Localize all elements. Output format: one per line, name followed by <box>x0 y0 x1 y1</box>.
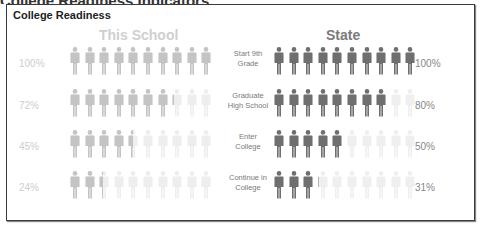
person-icon <box>201 89 211 117</box>
person-icon <box>172 47 182 75</box>
state-percent: 80% <box>415 100 455 111</box>
person-icon <box>99 130 109 158</box>
person-icon <box>362 130 372 158</box>
person-icon <box>128 47 138 75</box>
person-icon <box>85 171 95 199</box>
person-icon <box>362 171 372 199</box>
person-icon <box>405 89 415 117</box>
person-icon <box>114 47 124 75</box>
person-icon <box>347 171 357 199</box>
college-readiness-panel: College Readiness This School State 100%… <box>6 4 475 221</box>
row-continue-in-college: 24% Continue inCollege 31% <box>7 169 474 205</box>
person-icon <box>318 130 328 158</box>
person-icon <box>85 89 95 117</box>
person-icon <box>303 171 313 199</box>
person-icon <box>99 89 109 117</box>
person-icon <box>274 47 284 75</box>
person-icon <box>128 171 138 199</box>
person-icon <box>143 171 153 199</box>
row-enter-college: 45% EnterCollege 50% <box>7 128 474 164</box>
person-icon <box>70 47 80 75</box>
person-icon <box>289 171 299 199</box>
person-icon <box>332 171 342 199</box>
person-icon <box>332 130 342 158</box>
person-icon <box>405 171 415 199</box>
person-icon <box>114 130 124 158</box>
person-icon <box>201 47 211 75</box>
person-icon <box>318 89 328 117</box>
person-icon <box>376 171 386 199</box>
state-header: State <box>326 27 360 43</box>
person-icon <box>99 171 109 199</box>
person-icon <box>303 47 313 75</box>
person-icon <box>391 130 401 158</box>
stage-label: EnterCollege <box>213 132 283 152</box>
person-icon <box>405 130 415 158</box>
person-icon <box>362 89 372 117</box>
person-icon <box>201 130 211 158</box>
row-graduate-high-school: 72% GraduateHigh School 80% <box>7 87 474 123</box>
person-icon <box>347 89 357 117</box>
person-icon <box>376 130 386 158</box>
person-icon <box>274 130 284 158</box>
person-icon <box>332 47 342 75</box>
school-percent: 100% <box>19 58 57 69</box>
person-icon <box>391 171 401 199</box>
person-icon <box>158 171 168 199</box>
this-school-header: This School <box>99 27 178 43</box>
person-icon <box>274 171 284 199</box>
school-percent: 24% <box>19 182 57 193</box>
person-icon <box>318 47 328 75</box>
person-icon <box>289 47 299 75</box>
person-icon <box>303 130 313 158</box>
state-percent: 31% <box>415 182 455 193</box>
person-icon <box>376 47 386 75</box>
person-icon <box>274 89 284 117</box>
person-icon <box>289 130 299 158</box>
person-icon <box>70 89 80 117</box>
person-icon <box>303 89 313 117</box>
person-icon <box>128 130 138 158</box>
person-icon <box>391 47 401 75</box>
person-icon <box>114 89 124 117</box>
stage-label: Start 9thGrade <box>213 49 283 69</box>
person-icon <box>187 47 197 75</box>
person-icon <box>143 130 153 158</box>
person-icon <box>187 130 197 158</box>
person-icon <box>318 171 328 199</box>
stage-label: GraduateHigh School <box>213 91 283 111</box>
person-icon <box>143 89 153 117</box>
stage-label: Continue inCollege <box>213 173 283 193</box>
person-icon <box>391 89 401 117</box>
person-icon <box>158 89 168 117</box>
person-icon <box>158 130 168 158</box>
state-percent: 100% <box>415 58 455 69</box>
person-icon <box>70 171 80 199</box>
person-icon <box>158 47 168 75</box>
person-icon <box>201 171 211 199</box>
person-icon <box>187 171 197 199</box>
person-icon <box>187 89 197 117</box>
panel-title: College Readiness <box>13 9 111 21</box>
person-icon <box>347 130 357 158</box>
person-icon <box>376 89 386 117</box>
person-icon <box>99 47 109 75</box>
person-icon <box>172 89 182 117</box>
person-icon <box>143 47 153 75</box>
person-icon <box>85 130 95 158</box>
person-icon <box>347 47 357 75</box>
person-icon <box>128 89 138 117</box>
person-icon <box>362 47 372 75</box>
school-percent: 45% <box>19 141 57 152</box>
person-icon <box>289 89 299 117</box>
person-icon <box>405 47 415 75</box>
person-icon <box>172 171 182 199</box>
state-percent: 50% <box>415 141 455 152</box>
person-icon <box>85 47 95 75</box>
person-icon <box>70 130 80 158</box>
person-icon <box>114 171 124 199</box>
row-start-9th-grade: 100% Start 9thGrade 100% <box>7 45 474 81</box>
person-icon <box>172 130 182 158</box>
person-icon <box>332 89 342 117</box>
school-percent: 72% <box>19 100 57 111</box>
